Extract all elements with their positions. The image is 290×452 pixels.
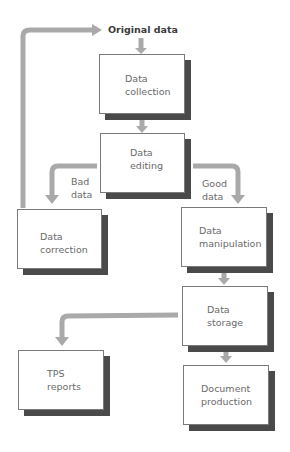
node-label: Datastorage xyxy=(207,303,243,329)
node-data-manipulation: Datamanipulation xyxy=(181,207,267,267)
node-label: Datacorrection xyxy=(40,230,88,256)
node-label: Datacollection xyxy=(125,72,171,98)
node-label: TPSreports xyxy=(47,367,81,393)
node-document-production: Documentproduction xyxy=(183,365,269,425)
node-label: Documentproduction xyxy=(201,382,252,408)
original-data-label: Original data xyxy=(108,24,178,35)
bad-data-label: Baddata xyxy=(71,175,92,201)
node-data-correction: Datacorrection xyxy=(17,209,102,269)
node-data-storage: Datastorage xyxy=(182,286,268,346)
node-label: Datamanipulation xyxy=(199,224,261,250)
node-data-editing: Dataediting xyxy=(100,133,185,193)
node-tps-reports: TPSreports xyxy=(18,350,104,410)
node-label: Dataediting xyxy=(130,146,163,172)
node-data-collection: Datacollection xyxy=(99,54,185,114)
good-data-label: Gooddata xyxy=(202,177,227,203)
